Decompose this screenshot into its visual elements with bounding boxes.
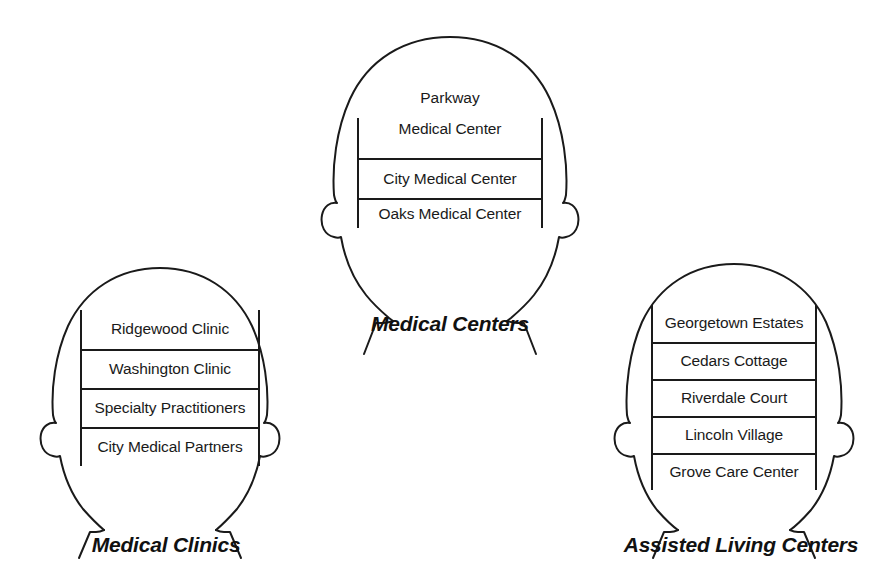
table-cell-label: Washington Clinic [109,360,231,378]
table-row[interactable]: Riverdale Court [653,379,815,416]
table-cell-label: Medical Center [399,120,502,139]
caption-medical-clinics: Medical Clinics [26,533,306,557]
head-group-medical-centers: Parkway Medical Center City Medical Cent… [300,30,600,360]
table-cell-label: Cedars Cottage [680,352,787,370]
row-label-overflow-parkway: Parkway [420,89,479,107]
table-row[interactable]: Lincoln Village [653,416,815,453]
table-row[interactable]: Grove Care Center [653,453,815,490]
caption-assisted-living-centers: Assisted Living Centers [598,533,884,557]
diagram-canvas: Parkway Medical Center City Medical Cent… [0,0,891,588]
table-cell-label: Grove Care Center [669,463,798,481]
table-cell-label: Lincoln Village [685,426,783,444]
head-group-assisted-living-centers: Georgetown Estates Cedars Cottage Riverd… [602,258,874,530]
table-assisted-living-centers: Georgetown Estates Cedars Cottage Riverd… [651,305,817,490]
table-cell-label: Georgetown Estates [665,314,804,332]
table-medical-centers: Medical Center City Medical Center Oaks … [357,118,543,228]
table-row[interactable]: City Medical Center [359,158,541,198]
table-cell-label: Specialty Practitioners [94,399,245,417]
table-cell-label: City Medical Partners [97,438,242,456]
table-cell-label: Riverdale Court [681,389,787,407]
table-cell-label: Ridgewood Clinic [111,320,229,338]
table-cell-label: City Medical Center [383,170,516,188]
table-medical-clinics: Ridgewood Clinic Washington Clinic Speci… [80,310,260,466]
table-row[interactable]: City Medical Partners [82,427,258,466]
head-group-medical-clinics: Ridgewood Clinic Washington Clinic Speci… [30,262,302,530]
table-row[interactable]: Ridgewood Clinic [82,310,258,349]
table-cell-label: Oaks Medical Center [379,205,522,223]
table-row[interactable]: Washington Clinic [82,349,258,388]
table-row[interactable]: Georgetown Estates [653,305,815,342]
caption-medical-centers: Medical Centers [300,312,600,336]
table-row[interactable]: Cedars Cottage [653,342,815,379]
table-row[interactable]: Medical Center [359,118,541,158]
table-row[interactable]: Oaks Medical Center [359,198,541,228]
table-row[interactable]: Specialty Practitioners [82,388,258,427]
